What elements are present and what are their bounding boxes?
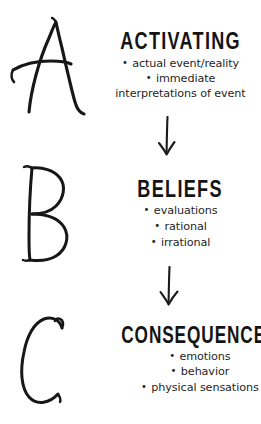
list-item: • actual event/reality: [115, 56, 245, 72]
text-column-beliefs: BELIEFS • evaluations • rational • irrat…: [104, 178, 261, 250]
bullet-dot-icon: •: [169, 350, 176, 361]
list-item-label: emotions: [179, 350, 230, 363]
list-item-label: rational: [165, 220, 207, 233]
text-column-activating: ACTIVATING • actual event/reality • imme…: [104, 30, 261, 101]
bullet-dot-icon: •: [151, 236, 158, 247]
bullet-dot-icon: •: [141, 381, 148, 392]
letter-c-glyph: [16, 312, 88, 408]
list-item-label: physical sensations: [151, 381, 258, 394]
block-beliefs: BELIEFS • evaluations • rational • irrat…: [0, 162, 261, 266]
list-item-label: behavior: [181, 365, 229, 378]
arrow-a-to-b-icon: [154, 116, 180, 158]
heading-beliefs: BELIEFS: [138, 177, 223, 202]
big-letter-a: [0, 16, 104, 116]
list-item-label: interpretations of event: [115, 87, 245, 100]
big-letter-c: [0, 312, 104, 408]
bullet-list-beliefs: • evaluations • rational • irrational: [144, 203, 218, 250]
list-item: • physical sensations: [141, 380, 259, 396]
bullet-dot-icon: •: [122, 57, 129, 68]
bullet-dot-icon: •: [146, 72, 153, 83]
list-item: interpretations of event: [115, 87, 245, 102]
big-letter-b: [0, 164, 104, 264]
arrow-b-to-c-icon: [156, 266, 182, 308]
list-item: • immediate: [115, 71, 245, 87]
block-consequences: CONSEQUENCES • emotions • behavior • phy…: [0, 310, 261, 410]
text-column-consequences: CONSEQUENCES • emotions • behavior • phy…: [104, 324, 261, 395]
list-item-label: evaluations: [154, 204, 218, 217]
abc-model-diagram: ACTIVATING • actual event/reality • imme…: [0, 0, 261, 424]
list-item: • evaluations: [144, 203, 218, 219]
heading-activating: ACTIVATING: [120, 29, 241, 54]
list-item: • rational: [144, 219, 218, 235]
letter-b-glyph: [16, 164, 88, 264]
list-item: • emotions: [141, 349, 259, 365]
bullet-list-consequences: • emotions • behavior • physical sensati…: [141, 349, 259, 396]
letter-a-glyph: [9, 16, 95, 116]
list-item-label: actual event/reality: [132, 57, 239, 70]
list-item-label: irrational: [161, 236, 210, 249]
bullet-list-activating: • actual event/reality • immediate inter…: [115, 56, 245, 102]
bullet-dot-icon: •: [154, 220, 161, 231]
bullet-dot-icon: •: [171, 365, 178, 376]
block-activating: ACTIVATING • actual event/reality • imme…: [0, 14, 261, 118]
bullet-dot-icon: •: [144, 204, 151, 215]
heading-consequences: CONSEQUENCES: [121, 323, 261, 347]
list-item-label: immediate: [156, 72, 215, 85]
list-item: • behavior: [141, 364, 259, 380]
list-item: • irrational: [144, 235, 218, 251]
